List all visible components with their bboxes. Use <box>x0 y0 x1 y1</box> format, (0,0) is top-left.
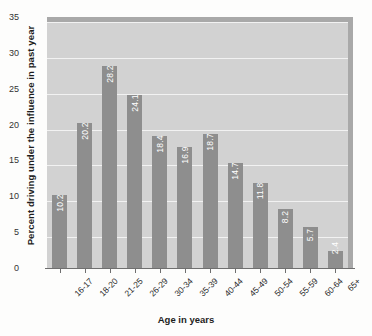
x-axis-tick-label: 26-29 <box>147 276 169 298</box>
y-axis-tick-label: 30 <box>0 48 19 58</box>
x-axis-tick-mark <box>335 268 336 273</box>
x-axis-tick-label: 35-39 <box>197 276 219 298</box>
bar-group: 11.8 <box>248 17 273 268</box>
y-axis-tick-label: 20 <box>0 120 19 130</box>
x-axis-tick-label: 21-25 <box>122 276 144 298</box>
y-axis-tick-label: 0 <box>0 263 19 273</box>
x-axis-tick-mark <box>135 268 136 273</box>
bar-group: 18.7 <box>198 17 223 268</box>
bar-group: 16.9 <box>172 17 197 268</box>
bar-group: 8.2 <box>273 17 298 268</box>
bar <box>203 134 218 268</box>
x-axis-tick-label: 50-54 <box>273 276 295 298</box>
bar-group: 20.2 <box>72 17 97 268</box>
bar-group: 28.2 <box>97 17 122 268</box>
x-axis-tick-mark <box>185 268 186 273</box>
bar <box>177 147 192 268</box>
x-axis-tick-mark <box>210 268 211 273</box>
x-axis-tick-mark <box>60 268 61 273</box>
bar-group: 14.7 <box>223 17 248 268</box>
x-axis-tick-label: 18-20 <box>97 276 119 298</box>
x-axis-tick-mark <box>260 268 261 273</box>
x-axis-tick-mark <box>235 268 236 273</box>
x-axis-tick-mark <box>110 268 111 273</box>
bar-value-label: 11.8 <box>255 183 265 200</box>
bar-value-label: 10.2 <box>55 194 65 211</box>
y-axis-tick-label: 10 <box>0 191 19 201</box>
bar <box>152 136 167 268</box>
bar-group: 2.4 <box>323 17 348 268</box>
bar-group: 24.1 <box>122 17 147 268</box>
bar-value-label: 5.7 <box>305 229 315 241</box>
x-axis-line <box>45 268 355 269</box>
y-axis-title: Percent driving under the influence in p… <box>25 6 36 266</box>
bar-value-label: 14.7 <box>230 162 240 179</box>
y-axis-tick-label: 15 <box>0 155 19 165</box>
bar-series: 10.220.228.224.118.416.918.714.711.88.25… <box>47 17 348 268</box>
x-axis-tick-mark <box>85 268 86 273</box>
bar-value-label: 16.9 <box>180 146 190 163</box>
bar-group: 5.7 <box>298 17 323 268</box>
bar <box>127 95 142 268</box>
x-axis-tick-mark <box>285 268 286 273</box>
x-axis-tick-label: 40-44 <box>222 276 244 298</box>
bar-group: 18.4 <box>147 17 172 268</box>
bar-group: 10.2 <box>47 17 72 268</box>
x-axis-tick-label: 45-49 <box>247 276 269 298</box>
x-axis-tick-label: 60-64 <box>323 276 345 298</box>
x-axis-title: Age in years <box>0 314 372 325</box>
x-axis-tick-label: 16-17 <box>72 276 94 298</box>
bar-chart: Percent driving under the influence in p… <box>0 0 372 336</box>
x-axis-tick-mark <box>310 268 311 273</box>
bar <box>77 123 92 268</box>
bar-value-label: 18.4 <box>155 135 165 152</box>
bar-value-label: 20.2 <box>80 122 90 139</box>
y-axis-tick-label: 25 <box>0 84 19 94</box>
bar-value-label: 2.4 <box>330 242 340 254</box>
bar-value-label: 28.2 <box>105 65 115 82</box>
x-axis-tick-label: 30-34 <box>172 276 194 298</box>
x-axis-tick-mark <box>160 268 161 273</box>
x-axis-tick-label: 55-59 <box>298 276 320 298</box>
bar-value-label: 18.7 <box>205 133 215 150</box>
bar-value-label: 24.1 <box>130 94 140 111</box>
x-axis-tick-label: 65+ <box>346 276 363 293</box>
bar-value-label: 8.2 <box>280 211 290 223</box>
bar <box>102 66 117 268</box>
y-axis-tick-label: 35 <box>0 12 19 22</box>
y-axis-tick-label: 5 <box>0 227 19 237</box>
